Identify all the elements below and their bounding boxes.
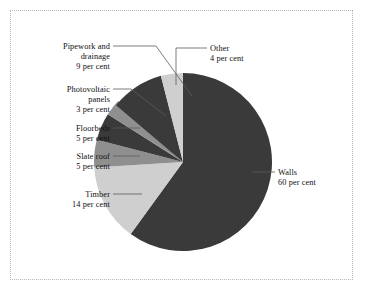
pie-label-walls-value: 60 per cent	[278, 178, 358, 188]
pie-label-floorbeds-value: 5 per cent	[26, 134, 110, 144]
pie-label-floorbeds-line1: Floorbeds	[26, 124, 110, 134]
pie-label-other-line1: Other	[210, 44, 300, 54]
pie-label-pipework-line2: drainage	[26, 52, 110, 62]
pie-label-slate-roof-value: 5 per cent	[26, 162, 110, 172]
pie-label-other: Other 4 per cent	[210, 44, 300, 64]
pie-label-walls: Walls 60 per cent	[278, 168, 358, 188]
pie-label-pipework-value: 9 per cent	[26, 62, 110, 72]
pie-label-timber-value: 14 per cent	[26, 200, 110, 210]
pie-label-photovoltaic-line2: panels	[26, 95, 110, 105]
pie-label-photovoltaic-line1: Photovoltaic	[26, 85, 110, 95]
pie-label-timber-line1: Timber	[26, 190, 110, 200]
pie-label-photovoltaic-panels: Photovoltaic panels 3 per cent	[26, 85, 110, 116]
pie-label-walls-line1: Walls	[278, 168, 358, 178]
pie-label-photovoltaic-value: 3 per cent	[26, 105, 110, 115]
pie-label-pipework-line1: Pipework and	[26, 42, 110, 52]
pie-label-floorbeds: Floorbeds 5 per cent	[26, 124, 110, 144]
pie-label-pipework-drainage: Pipework and drainage 9 per cent	[26, 42, 110, 73]
pie-label-timber: Timber 14 per cent	[26, 190, 110, 210]
pie-label-slate-roof-line1: Slate roof	[26, 152, 110, 162]
pie-chart-figure: Pipework and drainage 9 per cent Photovo…	[0, 0, 365, 294]
pie-label-other-value: 4 per cent	[210, 54, 300, 64]
pie-label-slate-roof: Slate roof 5 per cent	[26, 152, 110, 172]
